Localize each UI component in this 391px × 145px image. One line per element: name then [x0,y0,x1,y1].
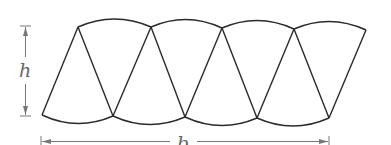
top-arc [294,21,366,30]
top-arc [151,19,222,28]
height-down-arrowhead [23,106,28,115]
top-arc [222,20,294,29]
sector-radius [185,28,222,117]
top-arc [78,19,151,27]
bottom-arc [113,116,185,125]
sector-radius [222,28,257,118]
sector-strip [42,19,366,126]
height-up-arrowhead [23,27,28,36]
sector-radius [294,29,329,118]
bottom-arc [42,115,113,124]
sector-radius [151,27,185,117]
height-label: h [19,59,31,81]
height-dimension: h [19,26,31,116]
base-left-arrowhead [42,139,51,144]
sector-radius [257,29,294,118]
sector-strip-diagram: h b [0,0,391,145]
base-dimension: b [41,132,329,145]
base-right-arrowhead [319,139,328,144]
sector-radius [78,27,113,116]
bottom-arc [185,117,257,126]
sector-radius [113,27,151,116]
sector-radius [42,27,78,115]
sector-radius [329,30,366,118]
base-label: b [177,132,189,145]
bottom-arc [257,118,329,126]
